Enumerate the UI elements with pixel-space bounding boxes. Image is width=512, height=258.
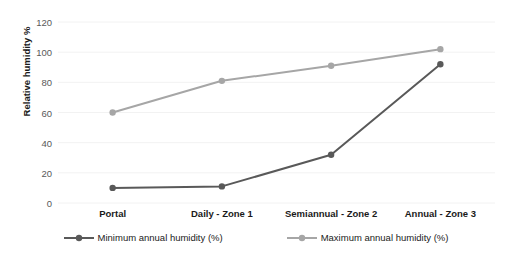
data-point[interactable] [109, 185, 115, 191]
legend-swatch-maximum-icon [287, 233, 317, 243]
legend-label-minimum: Minimum annual humidity (%) [98, 232, 223, 243]
series-minimum [109, 61, 443, 191]
data-point[interactable] [437, 46, 443, 52]
data-point[interactable] [328, 152, 334, 158]
legend-item-maximum[interactable]: Maximum annual humidity (%) [287, 232, 449, 243]
legend-label-maximum: Maximum annual humidity (%) [321, 232, 449, 243]
legend-item-minimum[interactable]: Minimum annual humidity (%) [64, 232, 223, 243]
data-point[interactable] [109, 109, 115, 115]
humidity-line-chart: Relative humidity % 020406080100120 Port… [0, 0, 512, 258]
x-axis-tick-label: Annual - Zone 3 [405, 208, 476, 219]
series-line [113, 49, 441, 112]
x-axis-tick-label: Portal [99, 208, 126, 219]
x-axis-tick-label: Daily - Zone 1 [191, 208, 253, 219]
x-axis-tick-label: Semiannual - Zone 2 [285, 208, 377, 219]
legend-swatch-minimum-icon [64, 233, 94, 243]
chart-legend: Minimum annual humidity (%) Maximum annu… [0, 232, 512, 243]
data-point[interactable] [219, 183, 225, 189]
series-maximum [109, 46, 443, 116]
gridlines [58, 22, 495, 203]
series-layer [109, 46, 443, 191]
data-point[interactable] [219, 78, 225, 84]
data-point[interactable] [437, 61, 443, 67]
plot-area [0, 0, 512, 258]
data-point[interactable] [328, 63, 334, 69]
